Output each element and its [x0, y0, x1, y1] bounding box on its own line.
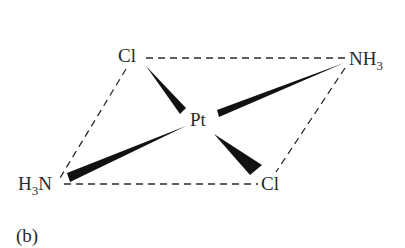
dashed-edge-right [276, 68, 345, 172]
wedge-bond-cl-bottom [214, 134, 262, 175]
dashed-edge-left [60, 69, 126, 178]
atom-nh3-subscript: 3 [376, 58, 383, 73]
atom-cl-bottom: Cl [261, 173, 279, 194]
platinum-complex-diagram: Cl NH3 Pt H3N Cl (b) [0, 0, 405, 248]
atom-h3n-n: N [38, 173, 52, 194]
wedge-bond-h3n [67, 126, 186, 182]
wedge-bond-nh3 [217, 63, 344, 117]
figure-caption: (b) [16, 225, 38, 247]
atom-pt: Pt [190, 109, 207, 130]
atom-cl-top: Cl [118, 45, 136, 66]
wedge-bond-cl-top [146, 66, 186, 114]
atom-h3n: H3N [18, 173, 52, 198]
atom-h3n-h: H [18, 173, 32, 194]
atom-nh3: NH3 [349, 48, 383, 73]
atom-nh3-main: NH [349, 48, 377, 69]
